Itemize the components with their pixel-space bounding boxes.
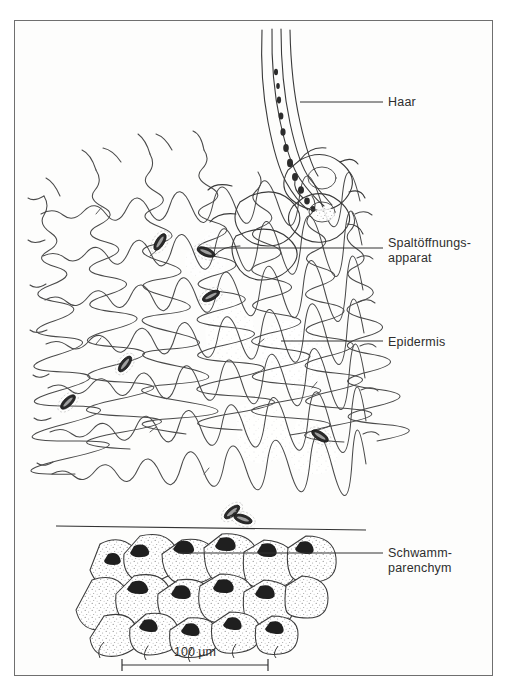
label-schwammparenchym: Schwamm- parenchym [388, 546, 452, 575]
figure-panel: Haar Spaltöffnungs- apparat Epidermis Sc… [0, 0, 511, 694]
trichome-hair [208, 29, 365, 280]
label-epidermis: Epidermis [388, 335, 445, 350]
label-spaltoeffnungsapparat: Spaltöffnungs- apparat [388, 236, 471, 265]
section-boundary-line [56, 526, 366, 530]
label-haar: Haar [388, 95, 416, 110]
scale-bar [122, 659, 268, 671]
stoma [112, 350, 139, 379]
stoma [54, 388, 82, 416]
scale-bar-label: 100 µm [122, 645, 268, 659]
